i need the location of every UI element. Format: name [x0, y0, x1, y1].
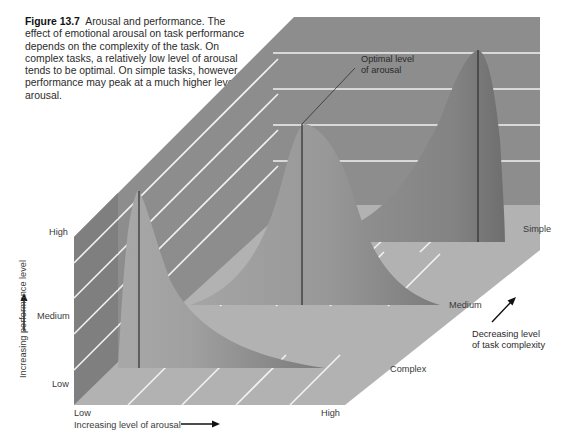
z-tick-simple: Simple [523, 224, 551, 234]
x-axis-label: Increasing level of arousal [74, 420, 181, 430]
z-axis-arrow [492, 297, 516, 322]
y-tick-high: High [49, 227, 68, 237]
y-axis-label: Increasing performance level [18, 268, 28, 378]
x-tick-low: Low [74, 408, 91, 418]
arousal-performance-figure: Figure 13.7 Arousal and performance. The… [0, 0, 563, 439]
y-tick-low: Low [52, 379, 69, 389]
3d-diagram [0, 0, 563, 439]
z-tick-complex: Complex [390, 364, 426, 374]
z-axis-label: Decreasing level of task complexity [472, 329, 545, 350]
optimal-arousal-annotation: Optimal level of arousal [361, 54, 414, 75]
z-tick-medium: Medium [449, 300, 482, 310]
x-axis-arrow [181, 421, 220, 428]
x-tick-high: High [321, 408, 340, 418]
y-tick-medium: Medium [37, 311, 70, 321]
